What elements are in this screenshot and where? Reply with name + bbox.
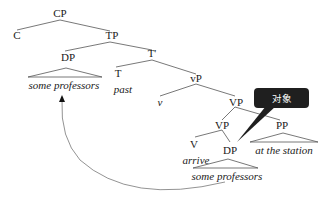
node-little-vp: vP (190, 72, 202, 84)
edge-VP2-DP (222, 130, 230, 142)
tooltip: 对象 (237, 88, 309, 142)
node-little-v: v (158, 96, 163, 108)
leaf-dp-obj: some professors (192, 170, 263, 182)
leaf-v: arrive (183, 154, 210, 166)
node-dp-spec: DP (61, 51, 75, 63)
node-c: C (13, 29, 20, 41)
edge-tp-tbar (110, 42, 152, 50)
edge-cp-c (17, 20, 60, 30)
arrowhead-icon (59, 95, 65, 102)
edge-vp-v (160, 84, 196, 96)
tooltip-label: 对象 (272, 93, 292, 104)
node-v: V (190, 138, 198, 150)
edge-vp-VP (196, 84, 235, 96)
edge-VP2-V (195, 130, 222, 137)
syntax-tree-diagram: CP C TP DP some professors T' T past vP … (0, 0, 330, 204)
edge-cp-tp (60, 20, 110, 31)
node-dp-obj: DP (223, 144, 237, 156)
node-vp-lower: VP (215, 119, 229, 131)
node-vp-upper: VP (229, 96, 243, 108)
edge-tp-dp (65, 42, 110, 51)
triangle-dp-spec (28, 68, 102, 77)
node-tp: TP (106, 29, 119, 41)
triangle-pp (250, 133, 318, 142)
node-cp: CP (53, 7, 66, 19)
leaf-pp: at the station (255, 144, 313, 156)
node-t-bar: T' (148, 47, 157, 59)
node-t: T (115, 67, 122, 79)
leaf-t: past (113, 83, 133, 95)
leaf-dp-spec: some professors (29, 79, 100, 91)
node-pp: PP (276, 119, 288, 131)
edge-tbar-t (116, 60, 152, 67)
